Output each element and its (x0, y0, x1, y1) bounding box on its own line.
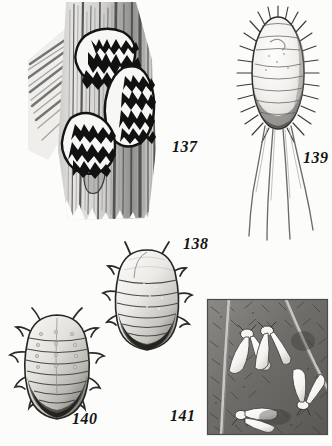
leaf-vignette (207, 297, 329, 437)
figure-138-illustration (100, 236, 196, 356)
figure-139-illustration (232, 2, 324, 242)
figure-number-140: 140 (72, 411, 98, 427)
figure-137-illustration (28, 0, 176, 222)
figure-number-141: 141 (170, 408, 196, 424)
insect-body-138 (115, 250, 178, 350)
figure-number-137: 137 (172, 139, 198, 155)
figure-number-139: 139 (303, 150, 329, 166)
figure-141-illustration (207, 299, 328, 435)
figure-number-138: 138 (183, 236, 209, 252)
illustration-plate: 137 (0, 0, 332, 446)
figure-140-illustration (8, 302, 108, 424)
caudal-filaments (249, 126, 313, 240)
